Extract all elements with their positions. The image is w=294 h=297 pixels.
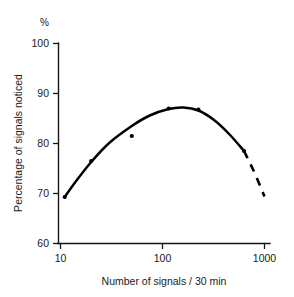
data-point xyxy=(130,134,134,138)
data-point xyxy=(63,195,67,199)
data-point xyxy=(196,107,200,111)
y-tick-label-60: 60 xyxy=(37,237,49,249)
y-tick-label-90: 90 xyxy=(37,87,49,99)
y-unit-label: % xyxy=(40,17,49,28)
data-point xyxy=(89,159,93,163)
y-axis-title: Percentage of signals noticed xyxy=(12,74,24,212)
chart-figure: % 100 90 80 70 60 10 100 1000 Percentage… xyxy=(0,0,294,297)
x-tick-label-1000: 1000 xyxy=(253,252,277,264)
signals-noticed-line-chart: % 100 90 80 70 60 10 100 1000 Percentage… xyxy=(0,0,294,297)
x-tick-label-100: 100 xyxy=(154,252,172,264)
y-tick-label-70: 70 xyxy=(37,187,49,199)
x-axis-title: Number of signals / 30 min xyxy=(102,275,227,287)
y-tick-label-80: 80 xyxy=(37,137,49,149)
data-point xyxy=(167,106,171,110)
y-tick-label-100: 100 xyxy=(31,37,49,49)
x-tick-label-10: 10 xyxy=(55,252,67,264)
data-point xyxy=(242,149,246,153)
